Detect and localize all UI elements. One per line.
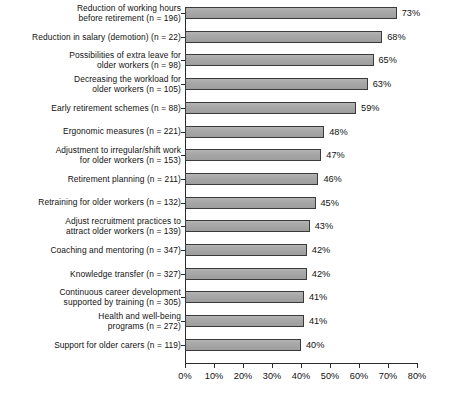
category-label: Decreasing the workload for older worker…	[0, 74, 181, 94]
bar-value-label: 46%	[323, 173, 341, 185]
plot-area: Reduction of working hours before retire…	[0, 0, 453, 403]
bar	[185, 78, 368, 90]
x-axis-tick	[272, 364, 273, 368]
category-label: Coaching and mentoring (n = 347)	[0, 245, 181, 255]
bar	[185, 31, 382, 43]
bar	[185, 102, 356, 114]
category-label: Ergonomic measures (n = 221)	[0, 126, 181, 136]
bar-value-label: 68%	[387, 31, 405, 43]
bar	[185, 315, 304, 327]
category-label: Health and well-being programs (n = 272)	[0, 311, 181, 331]
bar	[185, 54, 374, 66]
bar	[185, 339, 301, 351]
category-label: Adjust recruitment practices to attract …	[0, 216, 181, 236]
bar	[185, 220, 310, 232]
bar-value-label: 40%	[306, 339, 324, 351]
bar-value-label: 41%	[309, 291, 327, 303]
bar-chart: Reduction of working hours before retire…	[0, 0, 453, 403]
bar-value-label: 45%	[321, 197, 339, 209]
category-label: Reduction in salary (demotion) (n = 22)	[0, 32, 181, 42]
bar-value-label: 41%	[309, 315, 327, 327]
bar	[185, 126, 324, 138]
bar-row: Decreasing the workload for older worker…	[0, 78, 453, 102]
x-axis-tick	[388, 364, 389, 368]
bar	[185, 268, 307, 280]
bar-value-label: 48%	[329, 126, 347, 138]
bar	[185, 291, 304, 303]
bar-row: Early retirement schemes (n = 88)59%	[0, 102, 453, 126]
category-label: Continuous career development supported …	[0, 287, 181, 307]
bar-row: Adjustment to irregular/shift work for o…	[0, 149, 453, 173]
x-axis-tick	[243, 364, 244, 368]
bar-row: Coaching and mentoring (n = 347)42%	[0, 244, 453, 268]
category-label: Early retirement schemes (n = 88)	[0, 103, 181, 113]
bar-value-label: 65%	[379, 54, 397, 66]
category-label: Retirement planning (n = 211)	[0, 174, 181, 184]
x-axis-tick	[359, 364, 360, 368]
bar-row: Support for older carers (n = 119)40%	[0, 339, 453, 363]
bar-value-label: 59%	[361, 102, 379, 114]
bar-value-label: 47%	[326, 149, 344, 161]
category-label: Possibilities of extra leave for older w…	[0, 50, 181, 70]
category-label: Support for older carers (n = 119)	[0, 340, 181, 350]
category-label: Adjustment to irregular/shift work for o…	[0, 145, 181, 165]
bar-row: Retirement planning (n = 211)46%	[0, 173, 453, 197]
category-label: Knowledge transfer (n = 327)	[0, 269, 181, 279]
bar-row: Adjust recruitment practices to attract …	[0, 220, 453, 244]
category-label: Reduction of working hours before retire…	[0, 3, 181, 23]
x-axis-tick	[301, 364, 302, 368]
bar-value-label: 43%	[315, 220, 333, 232]
bar-row: Reduction of working hours before retire…	[0, 7, 453, 31]
x-axis-tick	[214, 364, 215, 368]
x-axis-tick	[330, 364, 331, 368]
bar	[185, 173, 318, 185]
bar-value-label: 42%	[312, 244, 330, 256]
bar	[185, 149, 321, 161]
x-axis-tick-label: 80%	[397, 371, 437, 382]
bar	[185, 197, 316, 209]
x-axis-tick	[417, 364, 418, 368]
bar-value-label: 42%	[312, 268, 330, 280]
bar-value-label: 73%	[402, 7, 420, 19]
bar	[185, 7, 397, 19]
bar-value-label: 63%	[373, 78, 391, 90]
bar	[185, 244, 307, 256]
category-label: Retraining for older workers (n = 132)	[0, 197, 181, 207]
x-axis-tick	[185, 364, 186, 368]
bar-row: Health and well-being programs (n = 272)…	[0, 315, 453, 339]
